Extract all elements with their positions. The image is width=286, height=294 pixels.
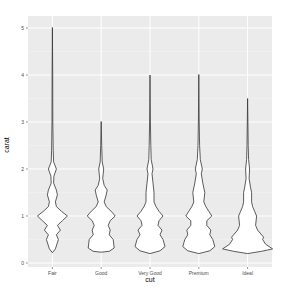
violin-chart: 012345 FairGoodVery GoodPremiumIdeal cut…	[0, 0, 286, 294]
x-tick-label: Fair	[48, 270, 57, 276]
y-tick-label: 3	[21, 119, 24, 125]
y-tick-label: 5	[21, 25, 24, 31]
x-tick-label: Good	[95, 270, 107, 276]
y-tick-label: 1	[21, 213, 24, 219]
y-axis: 012345	[21, 25, 28, 266]
y-tick-label: 2	[21, 166, 24, 172]
y-tick-label: 4	[21, 72, 24, 78]
x-tick-label: Ideal	[242, 270, 253, 276]
x-tick-label: Premium	[189, 270, 209, 276]
y-tick-label: 0	[21, 260, 24, 266]
x-axis-title: cut	[145, 276, 154, 283]
y-axis-title: carat	[3, 137, 10, 153]
x-axis: FairGoodVery GoodPremiumIdeal	[48, 267, 253, 276]
